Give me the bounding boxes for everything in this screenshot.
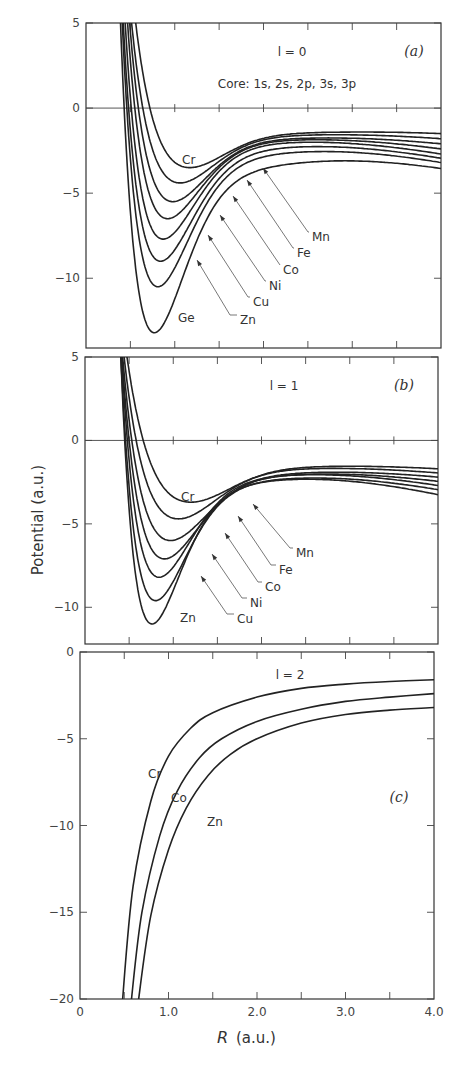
- panel-tag: (a): [404, 43, 423, 59]
- curve-co: [104, 0, 441, 219]
- y-tick-label: −5: [56, 732, 74, 746]
- figure: 50−5−10CrMnFeCoNiCuZnGel = 0(a)Core: 1s,…: [0, 0, 461, 1065]
- y-tick-label: 5: [71, 350, 79, 364]
- leader-line-cu: [208, 235, 250, 297]
- y-tick-label: −10: [54, 600, 79, 614]
- curve-label-co: Co: [283, 263, 299, 277]
- y-tick-label: 0: [66, 645, 74, 659]
- curve-cr: [123, 680, 435, 1001]
- curve-label-co: Co: [265, 580, 281, 594]
- y-tick-label: −15: [49, 905, 74, 919]
- arrowhead-fe: [247, 180, 252, 186]
- curve-zn: [94, 307, 438, 624]
- leader-line-cu: [201, 576, 234, 614]
- curve-label-ni: Ni: [250, 596, 262, 610]
- y-axis-title: Potential (a.u.): [29, 465, 47, 575]
- curve-label-zn: Zn: [240, 313, 256, 327]
- curve-zn: [138, 708, 434, 1002]
- leader-line-co: [233, 196, 280, 265]
- curve-label-ni: Ni: [269, 279, 281, 293]
- arrowhead-ni: [220, 215, 225, 221]
- angular-momentum-label: l = 2: [276, 668, 305, 682]
- curve-label-zn: Zn: [207, 815, 223, 829]
- curve-co: [98, 307, 438, 559]
- y-tick-label: 5: [72, 16, 80, 30]
- leader-line-mn: [263, 168, 309, 232]
- curve-label-mn: Mn: [296, 546, 314, 560]
- y-tick-label: −5: [62, 186, 80, 200]
- arrowhead-ni: [212, 554, 217, 560]
- leader-line-fe: [238, 516, 276, 565]
- x-axis-title-units: (a.u.): [236, 1029, 276, 1047]
- curve-ge: [93, 0, 441, 333]
- curve-label-ge: Ge: [178, 311, 195, 325]
- curve-label-cr: Cr: [181, 490, 194, 504]
- curve-label-fe: Fe: [297, 246, 311, 260]
- x-axis-title: R (a.u.): [217, 1028, 276, 1047]
- leader-line-fe: [247, 180, 294, 248]
- leader-line-zn: [197, 260, 237, 315]
- arrowhead-co: [225, 533, 230, 539]
- arrowhead-co: [233, 196, 238, 202]
- core-subtitle: Core: 1s, 2s, 2p, 3s, 3p: [218, 77, 356, 91]
- curve-co: [131, 694, 434, 1001]
- leader-line-mn: [253, 504, 293, 548]
- panel-tag: (b): [394, 377, 414, 393]
- panel-a: 50−5−10CrMnFeCoNiCuZnGel = 0(a)Core: 1s,…: [55, 0, 441, 348]
- x-tick-label: 3.0: [336, 1005, 355, 1019]
- angular-momentum-label: l = 0: [278, 45, 307, 59]
- arrowhead-cu: [208, 235, 213, 241]
- y-tick-label: 0: [71, 433, 79, 447]
- curve-label-cr: Cr: [148, 767, 161, 781]
- curve-ni: [100, 0, 441, 239]
- x-tick-label: 1.0: [159, 1005, 178, 1019]
- y-tick-label: −20: [49, 992, 74, 1006]
- curve-label-cr: Cr: [182, 153, 195, 167]
- curve-label-fe: Fe: [279, 563, 293, 577]
- y-tick-label: −10: [49, 819, 74, 833]
- curve-label-cu: Cu: [237, 612, 253, 626]
- curve-label-mn: Mn: [312, 230, 330, 244]
- plot-frame: [80, 652, 434, 999]
- curve-label-co: Co: [171, 791, 187, 805]
- x-tick-label: 4.0: [424, 1005, 443, 1019]
- y-tick-label: −10: [55, 271, 80, 285]
- arrowhead-zn: [197, 260, 202, 266]
- curve-label-cu: Cu: [253, 295, 269, 309]
- curve-fe: [107, 0, 441, 202]
- arrowhead-fe: [238, 516, 243, 522]
- leader-line-ni: [212, 554, 247, 598]
- leader-line-ni: [220, 215, 266, 281]
- x-tick-label: 2.0: [247, 1005, 266, 1019]
- x-tick-label: 0: [76, 1005, 84, 1019]
- panel-c: 0−5−10−15−2001.02.03.04.0CrCoZnl = 2(c): [49, 645, 444, 1019]
- angular-momentum-label: l = 1: [270, 379, 299, 393]
- curve-cu: [95, 307, 438, 601]
- y-tick-label: −5: [61, 517, 79, 531]
- x-axis-title-symbol: R: [217, 1028, 228, 1047]
- curve-label-zn: Zn: [180, 611, 196, 625]
- panel-tag: (c): [390, 789, 409, 805]
- panel-b: 50−5−10CrMnFeCoNiCuZnl = 1(b): [54, 307, 438, 644]
- curve-mn: [105, 307, 438, 519]
- arrowhead-cu: [201, 576, 206, 582]
- y-tick-label: 0: [72, 101, 80, 115]
- leader-line-co: [225, 533, 262, 582]
- curve-fe: [101, 307, 438, 541]
